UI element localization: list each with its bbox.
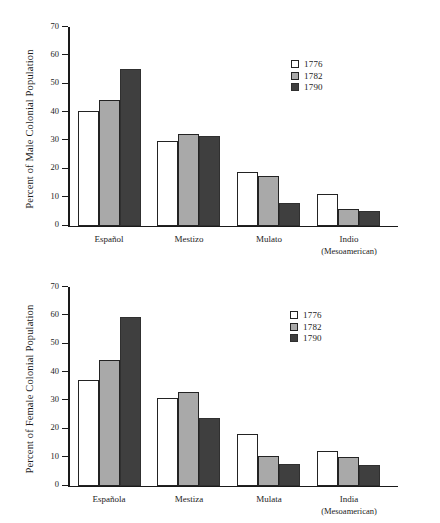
chart-male-colonial-population: Percent of Male Colonial Population 0102…	[0, 0, 440, 262]
bar[interactable]	[199, 418, 220, 485]
bar[interactable]	[258, 176, 279, 226]
bar[interactable]	[359, 211, 380, 225]
x-axis-line	[68, 486, 398, 488]
x-axis-sublabel: (Mesoamerican)	[309, 246, 389, 258]
y-tick: 30	[62, 399, 68, 400]
bar-groups	[70, 287, 389, 486]
legend-label: 1776	[304, 59, 323, 69]
y-tick-label: 10	[51, 450, 60, 462]
bar[interactable]	[359, 465, 380, 485]
legend-item: 1790	[290, 333, 322, 343]
x-axis-line	[68, 226, 398, 228]
y-tick: 0	[62, 225, 68, 226]
bar[interactable]	[157, 141, 178, 226]
bar[interactable]	[78, 380, 99, 486]
bar-groups	[70, 27, 389, 226]
bar[interactable]	[120, 317, 141, 486]
legend-label: 1776	[303, 310, 322, 320]
y-tick: 20	[62, 428, 68, 429]
legend-swatch	[290, 311, 298, 319]
bar[interactable]	[237, 172, 258, 225]
y-tick: 20	[62, 168, 68, 169]
y-tick: 70	[62, 286, 68, 287]
x-axis-label: Mestiza	[149, 494, 229, 517]
y-tick: 40	[62, 371, 68, 372]
legend-swatch	[291, 72, 299, 80]
bar[interactable]	[338, 209, 359, 225]
bar-group	[229, 27, 309, 226]
y-tick-label: 10	[51, 190, 60, 202]
y-tick-label: 50	[51, 76, 60, 88]
legend-item: 1776	[291, 59, 323, 69]
bar-group	[149, 287, 229, 486]
y-tick-label: 20	[51, 161, 60, 173]
y-tick-label: 0	[55, 218, 59, 230]
legend-swatch	[290, 323, 298, 331]
x-axis-labels: EspañolMestizoMulatoIndio(Mesoamerican)	[69, 234, 389, 257]
y-tick-label: 60	[51, 308, 60, 320]
y-tick-label: 70	[51, 20, 60, 32]
y-tick: 10	[62, 456, 68, 457]
bar[interactable]	[178, 392, 199, 486]
y-tick: 40	[62, 111, 68, 112]
y-tick: 50	[62, 343, 68, 344]
x-axis-labels: EspañolaMestizaMulataIndia(Mesoamerican)	[69, 494, 389, 517]
bar-group	[308, 27, 388, 226]
bar[interactable]	[338, 457, 359, 486]
x-axis-sublabel: (Mesoamerican)	[309, 506, 389, 518]
bar[interactable]	[157, 398, 178, 485]
x-axis-label: Española	[69, 494, 149, 517]
figure-page: { "figure": { "background": "#ffffff", "…	[0, 0, 440, 523]
legend-label: 1782	[304, 71, 323, 81]
bar[interactable]	[237, 434, 258, 486]
y-axis-label: Percent of Female Colonial Population	[22, 284, 38, 494]
bar[interactable]	[317, 194, 338, 225]
legend-label: 1782	[303, 322, 322, 332]
y-tick: 70	[62, 26, 68, 27]
y-tick-label: 0	[55, 478, 59, 490]
y-tick: 60	[62, 314, 68, 315]
bar[interactable]	[120, 69, 141, 226]
legend: 177617821790	[291, 59, 323, 92]
legend-label: 1790	[304, 82, 323, 92]
bar[interactable]	[279, 203, 300, 226]
legend-label: 1790	[303, 333, 322, 343]
bar-group	[70, 27, 150, 226]
chart-female-colonial-population: Percent of Female Colonial Population 01…	[0, 262, 440, 523]
plot-area: 010203040506070	[68, 27, 388, 227]
bar[interactable]	[78, 111, 99, 226]
bar-group	[70, 287, 150, 486]
y-tick-label: 20	[51, 421, 60, 433]
bar[interactable]	[178, 134, 199, 226]
x-axis-label: Mulata	[229, 494, 309, 517]
x-axis-label: Mestizo	[149, 234, 229, 257]
x-axis-label: Indio(Mesoamerican)	[309, 234, 389, 257]
legend-swatch	[291, 83, 299, 91]
y-tick: 50	[62, 83, 68, 84]
legend-item: 1782	[291, 71, 323, 81]
plot-area: 010203040506070	[68, 287, 388, 487]
x-axis-label: India(Mesoamerican)	[309, 494, 389, 517]
y-tick-label: 40	[51, 105, 60, 117]
y-tick-label: 50	[51, 336, 60, 348]
y-tick: 30	[62, 139, 68, 140]
bar-group	[149, 27, 229, 226]
legend-item: 1776	[290, 310, 322, 320]
y-tick-label: 70	[51, 280, 60, 292]
bar[interactable]	[279, 464, 300, 485]
y-tick-label: 30	[51, 133, 60, 145]
bar[interactable]	[258, 456, 279, 486]
legend-item: 1790	[291, 82, 323, 92]
bar[interactable]	[317, 451, 338, 485]
y-tick: 0	[62, 485, 68, 486]
y-axis-label: Percent of Male Colonial Population	[22, 24, 38, 234]
bar[interactable]	[99, 100, 120, 226]
bar[interactable]	[99, 360, 120, 485]
x-axis-label: Mulato	[229, 234, 309, 257]
y-tick-label: 60	[51, 48, 60, 60]
y-tick: 10	[62, 196, 68, 197]
y-tick-label: 30	[51, 393, 60, 405]
bar[interactable]	[199, 136, 220, 225]
y-tick: 60	[62, 54, 68, 55]
x-axis-label: Español	[69, 234, 149, 257]
